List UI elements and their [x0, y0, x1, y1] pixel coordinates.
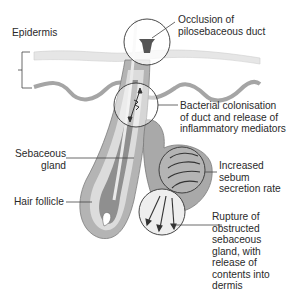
label-hair-follicle: Hair follicle: [14, 196, 64, 208]
label-bacterial: Bacterial colonisation of duct and relea…: [180, 100, 286, 135]
label-sebum: Increased sebum secretion rate: [219, 160, 281, 195]
epidermis-bracket: [18, 52, 32, 88]
label-epidermis: Epidermis: [12, 27, 57, 39]
rupture-zoom-circle: [139, 189, 185, 235]
label-sebaceous-gland: Sebaceous gland: [14, 148, 66, 171]
label-occlusion: Occlusion of pilosebaceous duct: [178, 14, 265, 37]
label-rupture: Rupture of obstructed sebaceous gland, w…: [212, 211, 270, 292]
